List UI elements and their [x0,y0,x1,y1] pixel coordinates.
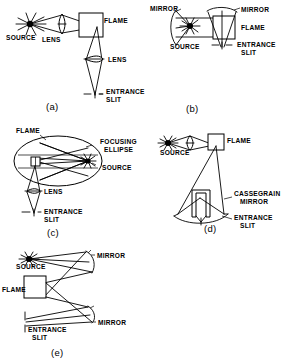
mirror-label-b2: MIRROR [241,6,269,13]
entrance-slit-label-c: ENTRANCE [44,208,83,215]
source-starburst-b [180,18,200,34]
panel-letter-d: (d) [204,223,217,234]
focusing-ellipse-label-c2: ELLIPSE [104,146,134,153]
mirror-label-e1: MIRROR [97,252,125,259]
entrance-slit-label-e: ENTRANCE [28,326,67,333]
cassegrain-mirror-label-d2: MIRROR [240,198,268,205]
mirror-label-e2: MIRROR [98,319,126,326]
source-label-b: SOURCE [170,43,200,50]
flame-label-d: FLAME [227,137,251,144]
entrance-slit-label-c2: SLIT [44,216,59,223]
panel-d-diagram [158,134,232,225]
panel-a-diagram [16,13,104,98]
panel-letter-a: (a) [46,101,59,112]
entrance-slit-label-e2: SLIT [32,334,47,341]
panel-c-diagram [14,135,102,216]
flame-label-c: FLAME [16,127,40,134]
flame-label-b: FLAME [241,24,265,31]
entrance-slit-label-a2: SLIT [106,96,121,103]
entrance-slit-label-b: ENTRANCE [237,41,276,48]
entrance-slit-label-d: ENTRANCE [234,214,273,221]
source-label-e: SOURCE [16,263,46,270]
flame-label-a: FLAME [104,17,128,24]
focusing-ellipse-label-c: FOCUSING [100,138,137,145]
panel-letter-b: (b) [186,103,199,114]
source-label-d: SOURCE [160,149,190,156]
source-label-c: SOURCE [102,164,132,171]
lens2-label-a: LENS [108,56,127,63]
cassegrain-mirror-label-d: CASSEGRAIN [234,190,280,197]
flame-label-e: FLAME [2,286,26,293]
entrance-slit-label-b2: SLIT [241,49,256,56]
panel-letter-e: (e) [51,347,64,358]
source-label-a: SOURCE [6,34,36,41]
lens-label-c: LENS [44,188,63,195]
entrance-slit-label-a: ENTRANCE [106,88,145,95]
panel-letter-c: (c) [47,227,59,238]
mirror-label-b1: MIRROR [150,5,178,12]
lens-label-a: LENS [42,36,61,43]
optical-arrangements-figure: SOURCE LENS FLAME LENS ENTRANCE SLIT MIR… [0,0,288,361]
entrance-slit-label-d2: SLIT [240,222,255,229]
